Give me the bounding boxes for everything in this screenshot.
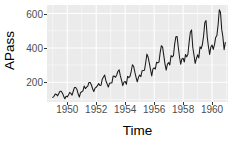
x-tick-label: 1960 [192,104,232,115]
x-axis-title: Time [47,123,228,138]
x-tick-mark [183,102,184,105]
x-tick-mark [125,102,126,105]
y-tick-label: 400 [3,42,43,53]
x-tick-mark [212,102,213,105]
x-tick-mark [154,102,155,105]
y-tick-label: 200 [3,77,43,88]
data-line-apass [53,10,226,99]
ggplot-chart: APass 200400600 195019521954195619581960… [0,0,237,147]
plot-canvas [47,5,228,102]
x-tick-mark [96,102,97,105]
plot-panel [47,5,228,102]
y-tick-label: 600 [3,8,43,19]
x-tick-mark [67,102,68,105]
